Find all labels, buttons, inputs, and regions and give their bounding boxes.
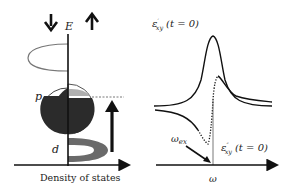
omega-ex-pointer-icon — [186, 146, 211, 163]
excitation-arrow-icon — [105, 100, 119, 152]
epsilon-prime-curve — [154, 36, 272, 106]
epsilon-prime-label: ε′xy(t = 0) — [152, 17, 199, 32]
spin-down-arrow-icon — [45, 14, 57, 30]
epsilon-double-prime-curve-core — [198, 76, 218, 144]
epsilon-double-prime-label: ε″xy(t = 0) — [221, 141, 268, 156]
density-of-states-panel: E p d Density of states — [14, 14, 128, 183]
empty-minority-band — [28, 44, 68, 71]
dos-axis-label: Density of states — [40, 172, 121, 183]
p-band-label: p — [35, 90, 42, 103]
d-band — [68, 138, 108, 162]
d-band-label: d — [52, 143, 59, 156]
epsilon-double-prime-curve-left — [155, 110, 198, 130]
magneto-optic-diagram: E p d Density of states ε′xy(t = 0) — [0, 0, 291, 187]
spin-up-arrow-icon — [86, 14, 98, 30]
epsilon-double-prime-curve-right — [218, 76, 272, 102]
omega-ex-label: ωex — [171, 133, 187, 146]
energy-axis-label: E — [64, 20, 73, 33]
omega-axis-label: ω — [209, 173, 217, 184]
dielectric-response-panel: ε′xy(t = 0) ωex ε″xy(t = 0) ω — [152, 17, 276, 184]
